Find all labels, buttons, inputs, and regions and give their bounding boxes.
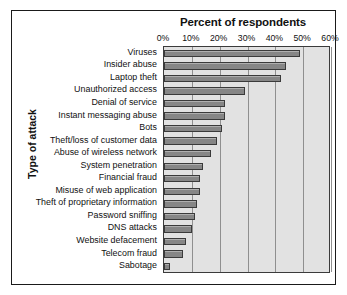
x-tick-label: 60% xyxy=(313,33,347,43)
y-axis-label-row: Misuse of web application xyxy=(22,184,160,197)
y-axis-label-row: Instant messaging abuse xyxy=(22,109,160,122)
bar xyxy=(164,137,217,144)
bar xyxy=(164,50,300,57)
bar xyxy=(164,75,281,82)
y-axis-label: Viruses xyxy=(128,48,160,57)
bar-row xyxy=(164,97,329,110)
bar-series xyxy=(164,47,329,272)
y-axis-label: Insider abuse xyxy=(104,60,160,69)
y-axis-label: DNS attacks xyxy=(108,223,160,232)
bar-row xyxy=(164,47,329,60)
y-axis-label-row: Denial of service xyxy=(22,96,160,109)
bar-row xyxy=(164,185,329,198)
y-axis-label-row: Unauthorized access xyxy=(22,84,160,97)
bar xyxy=(164,125,222,132)
bar xyxy=(164,213,195,220)
bar-row xyxy=(164,260,329,273)
bar xyxy=(164,225,192,232)
bar xyxy=(164,150,211,157)
bar xyxy=(164,163,203,170)
x-axis-tick-labels: 0%10%20%30%40%50%60% xyxy=(163,33,325,45)
bar xyxy=(164,100,225,107)
bar-row xyxy=(164,198,329,211)
bar-row xyxy=(164,210,329,223)
y-axis-label: Laptop theft xyxy=(110,73,160,82)
bar-row xyxy=(164,72,329,85)
y-axis-label-row: Sabotage xyxy=(22,259,160,272)
y-axis-label: Sabotage xyxy=(119,261,160,270)
chart-figure: Percent of respondents Type of attack 0%… xyxy=(0,0,347,295)
y-axis-label-row: Insider abuse xyxy=(22,59,160,72)
y-axis-label: Website defacement xyxy=(76,236,160,245)
y-axis-label-row: Theft of proprietary information xyxy=(22,197,160,210)
bar xyxy=(164,62,286,69)
y-axis-label: Telecom fraud xyxy=(101,249,160,258)
bar-row xyxy=(164,60,329,73)
plot-area xyxy=(163,46,330,273)
bar xyxy=(164,188,200,195)
y-axis-label-row: Website defacement xyxy=(22,234,160,247)
gridline xyxy=(331,47,332,272)
y-axis-label: Password sniffing xyxy=(88,211,160,220)
bar-row xyxy=(164,248,329,261)
y-axis-label-row: Bots xyxy=(22,121,160,134)
bar xyxy=(164,87,245,94)
bar-row xyxy=(164,147,329,160)
chart-title: Percent of respondents xyxy=(150,16,336,28)
bar-row xyxy=(164,85,329,98)
bar-row xyxy=(164,223,329,236)
bar xyxy=(164,263,170,270)
y-axis-label-row: Telecom fraud xyxy=(22,247,160,260)
y-axis-label: Theft/loss of customer data xyxy=(50,136,160,145)
y-axis-label-row: Viruses xyxy=(22,46,160,59)
y-axis-label: Instant messaging abuse xyxy=(58,111,160,120)
bar-row xyxy=(164,235,329,248)
y-axis-label: Theft of proprietary information xyxy=(36,198,160,207)
y-axis-category-labels: VirusesInsider abuseLaptop theftUnauthor… xyxy=(22,46,160,273)
y-axis-label-row: Financial fraud xyxy=(22,171,160,184)
bar xyxy=(164,112,225,119)
bar xyxy=(164,175,200,182)
y-axis-label-row: System penetration xyxy=(22,159,160,172)
y-axis-label-row: DNS attacks xyxy=(22,222,160,235)
bar-row xyxy=(164,110,329,123)
bar xyxy=(164,200,197,207)
y-axis-label-row: Laptop theft xyxy=(22,71,160,84)
y-axis-label: Financial fraud xyxy=(99,173,160,182)
y-axis-label: Unauthorized access xyxy=(74,85,160,94)
y-axis-label-row: Theft/loss of customer data xyxy=(22,134,160,147)
bar-row xyxy=(164,172,329,185)
y-axis-label: System penetration xyxy=(81,161,160,170)
y-axis-label: Denial of service xyxy=(91,98,160,107)
y-axis-label-row: Password sniffing xyxy=(22,209,160,222)
bar xyxy=(164,238,186,245)
bar-row xyxy=(164,122,329,135)
y-axis-label: Misuse of web application xyxy=(55,186,160,195)
bar-row xyxy=(164,135,329,148)
bar xyxy=(164,250,183,257)
y-axis-label: Abuse of wireless network xyxy=(54,148,160,157)
y-axis-label: Bots xyxy=(139,123,160,132)
bar-row xyxy=(164,160,329,173)
y-axis-label-row: Abuse of wireless network xyxy=(22,146,160,159)
